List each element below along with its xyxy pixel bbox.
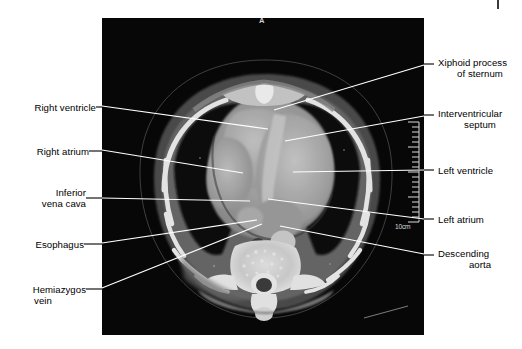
label-right-ventricle-line-1: Right ventricle bbox=[0, 102, 96, 113]
label-hemiazygos-vein-line-2: vein bbox=[0, 295, 86, 306]
label-right-atrium-line-1: Right atrium bbox=[0, 146, 89, 157]
label-inferior-vena-cava-line-2: vena cava bbox=[0, 198, 86, 209]
label-hemiazygos-vein: Hemiazygos vein bbox=[0, 284, 86, 306]
orientation-marker-anterior: A bbox=[259, 18, 264, 25]
label-descending-aorta-line-1: Descending bbox=[438, 248, 522, 259]
label-left-atrium-line-1: Left atrium bbox=[438, 214, 522, 225]
label-descending-aorta-line-2: aorta bbox=[438, 259, 522, 270]
label-xiphoid-process-line-2: of sternum bbox=[438, 68, 522, 79]
label-hemiazygos-vein-line-1: Hemiazygos bbox=[0, 284, 86, 295]
label-interventricular-septum-line-1: Interventricular bbox=[438, 108, 522, 119]
label-esophagus: Esophagus bbox=[0, 239, 84, 250]
label-left-atrium: Left atrium bbox=[438, 214, 522, 225]
label-descending-aorta: Descending aorta bbox=[438, 248, 522, 270]
figure-root: A 10cm bbox=[0, 0, 522, 349]
label-esophagus-line-1: Esophagus bbox=[0, 239, 84, 250]
label-left-ventricle-line-1: Left ventricle bbox=[438, 165, 522, 176]
label-interventricular-septum-line-2: septum bbox=[438, 119, 522, 130]
label-inferior-vena-cava-line-1: Inferior bbox=[0, 187, 86, 198]
ct-anatomy-render bbox=[102, 18, 424, 335]
label-xiphoid-process-of-sternum: Xiphoid process of sternum bbox=[438, 57, 522, 79]
label-right-atrium: Right atrium bbox=[0, 146, 89, 157]
label-xiphoid-process-line-1: Xiphoid process bbox=[438, 57, 522, 68]
label-inferior-vena-cava: Inferior vena cava bbox=[0, 187, 86, 209]
label-right-ventricle: Right ventricle bbox=[0, 102, 96, 113]
page-margin-tick bbox=[497, 0, 499, 9]
ct-scan-image: A 10cm bbox=[102, 18, 424, 335]
label-interventricular-septum: Interventricular septum bbox=[438, 108, 522, 130]
label-left-ventricle: Left ventricle bbox=[438, 165, 522, 176]
scale-label: 10cm bbox=[395, 223, 410, 230]
